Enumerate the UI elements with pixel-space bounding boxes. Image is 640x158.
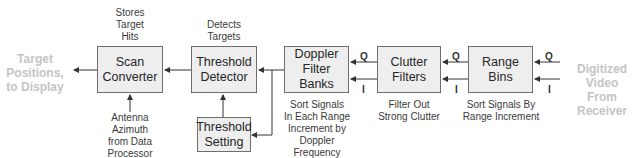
clutter-note: Filter Out Strong Clutter: [370, 99, 448, 123]
threshold-setting-block: Threshold Setting: [197, 117, 251, 152]
i-label: I: [362, 84, 365, 95]
range-bins-note: Sort Signals By Range Increment: [460, 99, 542, 123]
threshold-detector-block: Threshold Detector: [191, 46, 257, 93]
q-label: Q: [452, 51, 460, 62]
i-label: I: [455, 84, 458, 95]
scan-converter-block: Scan Converter: [97, 46, 163, 93]
input-label: Digitized Video From Receiver: [562, 62, 640, 118]
q-label: Q: [545, 51, 553, 62]
antenna-azimuth-note: Antenna Azimuth from Data Processor: [100, 112, 160, 158]
range-bins-block: Range Bins: [468, 46, 533, 93]
output-label: Target Positions, to Display: [0, 52, 70, 94]
threshold-detector-note: Detects Targets: [192, 19, 256, 43]
scan-converter-note: Stores Target Hits: [100, 7, 160, 43]
q-label: Q: [360, 51, 368, 62]
clutter-filters-block: Clutter Filters: [377, 46, 441, 93]
doppler-filter-banks-block: Doppler Filter Banks: [284, 46, 349, 93]
i-label: I: [548, 84, 551, 95]
doppler-note: Sort Signals In Each Range Increment by …: [280, 99, 354, 158]
